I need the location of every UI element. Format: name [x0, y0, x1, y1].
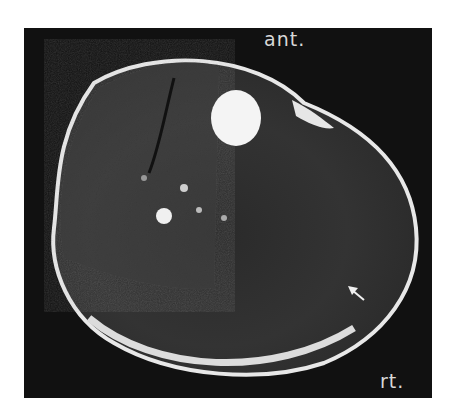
- mri-cross-section: [24, 28, 432, 398]
- right-label: rt.: [380, 370, 404, 392]
- mri-image-frame: ant. rt.: [24, 28, 432, 398]
- bright-structure: [211, 90, 261, 146]
- anterior-label: ant.: [264, 28, 305, 50]
